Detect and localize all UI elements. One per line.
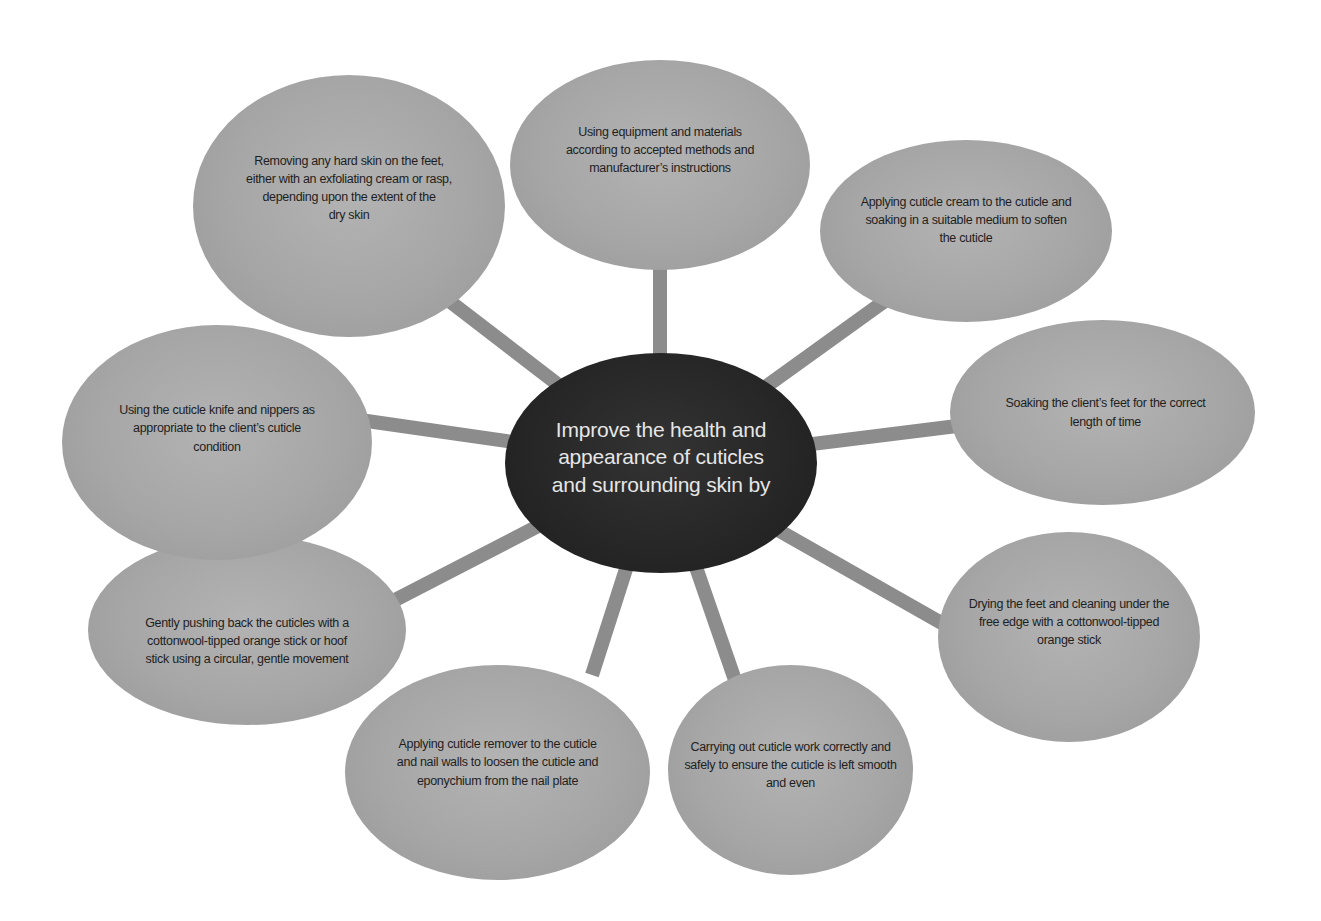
node-pushing-back: Gently pushing back the cuticles with a … — [88, 535, 406, 725]
node-line: orange stick — [1037, 633, 1101, 647]
node-hard-skin: Removing any hard skin on the feet, eith… — [193, 75, 505, 337]
node-line: stick using a circular, gentle movement — [146, 652, 349, 666]
node-cuticle-cream: Applying cuticle cream to the cuticle an… — [820, 140, 1112, 322]
node-equipment: Using equipment and materials according … — [510, 60, 810, 270]
node-line: dry skin — [329, 208, 370, 222]
hub-line: Improve the health and — [556, 418, 766, 441]
node-line: according to accepted methods and — [566, 143, 754, 157]
node-line: either with an exfoliating cream or rasp… — [246, 172, 452, 186]
hub-line: and surrounding skin by — [552, 473, 770, 496]
hub-central-topic: Improve the health and appearance of cut… — [505, 353, 817, 573]
node-drying: Drying the feet and cleaning under the f… — [938, 532, 1200, 742]
node-line: cottonwool-tipped orange stick or hoof — [147, 634, 347, 648]
hub-line: appearance of cuticles — [558, 445, 764, 468]
node-line: free edge with a cottonwool-tipped — [979, 615, 1159, 629]
node-line: appropriate to the client’s cuticle — [133, 421, 301, 435]
node-line: Removing any hard skin on the feet, — [254, 154, 444, 168]
node-line: manufacturer’s instructions — [589, 161, 731, 175]
mind-map-diagram: Using equipment and materials according … — [0, 0, 1321, 921]
node-line: Applying cuticle remover to the cuticle — [398, 737, 596, 751]
node-line: and nail walls to loosen the cuticle and — [397, 755, 598, 769]
node-line: Drying the feet and cleaning under the — [969, 597, 1170, 611]
node-line: depending upon the extent of the — [262, 190, 435, 204]
node-line: Carrying out cuticle work correctly and — [690, 740, 890, 754]
node-cuticle-remover: Applying cuticle remover to the cuticle … — [345, 665, 650, 880]
node-line: Using the cuticle knife and nippers as — [119, 403, 315, 417]
node-soaking: Soaking the client’s feet for the correc… — [950, 320, 1255, 505]
node-line: condition — [193, 440, 240, 454]
node-line: length of time — [1070, 415, 1141, 429]
node-line: and even — [766, 776, 815, 790]
node-line: Soaking the client’s feet for the correc… — [1005, 396, 1205, 410]
node-cuticle-work: Carrying out cuticle work correctly and … — [668, 665, 913, 875]
node-line: eponychium from the nail plate — [417, 774, 578, 788]
node-line: the cuticle — [940, 231, 993, 245]
node-line: soaking in a suitable medium to soften — [865, 213, 1066, 227]
node-line: Gently pushing back the cuticles with a — [145, 616, 349, 630]
node-line: Applying cuticle cream to the cuticle an… — [861, 195, 1072, 209]
node-knife-nippers: Using the cuticle knife and nippers as a… — [62, 325, 372, 560]
node-line: Using equipment and materials — [578, 125, 742, 139]
node-line: safely to ensure the cuticle is left smo… — [684, 758, 896, 772]
